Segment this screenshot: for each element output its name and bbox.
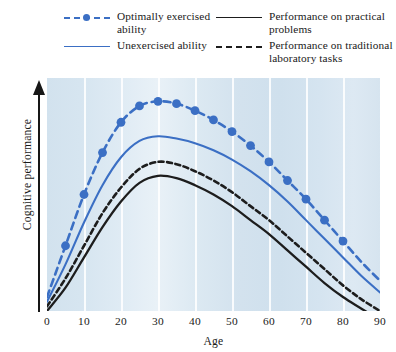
x-axis-tick-labels: 0102030405060708090: [47, 315, 380, 331]
y-axis-title: Cognitive performance: [21, 100, 34, 250]
data-point-marker: [80, 190, 89, 199]
chart-legend: Optimally exercised ability Unexercised …: [0, 0, 396, 72]
x-axis-title: Age: [47, 335, 380, 348]
legend-item-performance-practical-problems: Performance on practical problems: [216, 10, 396, 36]
x-axis-tick-label: 50: [226, 315, 238, 327]
data-point-marker: [339, 237, 348, 246]
x-axis-tick-label: 80: [337, 315, 349, 327]
data-point-marker: [154, 97, 163, 106]
data-point-marker: [172, 99, 181, 108]
data-point-marker: [320, 216, 329, 225]
data-point-marker: [135, 102, 144, 111]
series-lines: [47, 78, 380, 311]
data-point-marker: [117, 118, 126, 127]
data-point-marker: [228, 127, 237, 136]
legend-swatch-blue-solid-icon: [64, 40, 110, 53]
data-point-marker: [61, 241, 70, 250]
chart-canvas: Cognitive performance 010203040506070809…: [0, 72, 396, 352]
x-axis-tick-label: 70: [300, 315, 312, 327]
data-point-marker: [246, 141, 255, 150]
x-axis-tick-label: 40: [189, 315, 201, 327]
x-axis-tick-label: 0: [44, 315, 50, 327]
data-point-marker: [98, 148, 107, 157]
data-point-marker: [302, 195, 311, 204]
legend-swatch-black-solid-icon: [216, 11, 262, 24]
legend-item-optimally-exercised-ability: Optimally exercised ability: [64, 10, 214, 36]
data-point-marker: [191, 106, 200, 115]
x-axis-tick-label: 10: [78, 315, 90, 327]
plot-area: [47, 78, 380, 311]
legend-label: Performance on traditional laboratory ta…: [269, 39, 393, 65]
legend-item-unexercised-ability: Unexercised ability: [64, 39, 214, 53]
y-axis-arrow-icon: [33, 80, 45, 95]
data-point-marker: [209, 116, 218, 125]
data-point-marker: [283, 176, 292, 185]
legend-label: Unexercised ability: [117, 39, 207, 52]
legend-swatch-black-dashed-icon: [216, 40, 262, 53]
legend-item-performance-traditional-laboratory-tasks: Performance on traditional laboratory ta…: [216, 39, 396, 65]
x-axis-tick-label: 90: [374, 315, 386, 327]
data-point-marker: [265, 157, 274, 166]
x-axis-tick-label: 60: [263, 315, 275, 327]
series-line: [47, 101, 380, 297]
legend-label: Performance on practical problems: [269, 10, 385, 36]
y-axis-line: [38, 94, 40, 312]
legend-label: Optimally exercised ability: [117, 10, 210, 36]
x-axis-tick-label: 20: [115, 315, 127, 327]
x-axis-tick-label: 30: [152, 315, 164, 327]
legend-swatch-blue-dashed-dot-icon: [64, 11, 110, 24]
